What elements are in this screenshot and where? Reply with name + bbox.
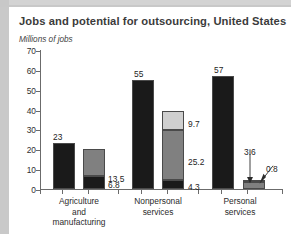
y-axis-label: 50	[6, 86, 36, 96]
category-label-line: Nonpersonal	[134, 196, 182, 207]
x-axis-category-label: Agricultureandmanufacturing	[52, 196, 105, 228]
chart-title: Jobs and potential for outsourcing, Unit…	[19, 15, 286, 27]
arrow-head-0-8	[260, 174, 267, 184]
y-axis-label: 30	[6, 125, 36, 135]
y-axis-label: 60	[6, 66, 36, 76]
plot-area: 010203040506070 2313.56.8559.725.24.3573…	[40, 50, 283, 190]
y-axis-label: 70	[6, 46, 36, 56]
chart-figure: Jobs and potential for outsourcing, Unit…	[0, 0, 291, 234]
annotation-arrows	[40, 50, 283, 191]
x-axis-category-label: Personalservices	[223, 196, 256, 217]
page-edge-left	[0, 0, 9, 234]
x-axis-category-label: Nonpersonalservices	[134, 196, 182, 217]
y-axis-label: 0	[6, 185, 36, 195]
y-axis-label: 40	[6, 106, 36, 116]
y-axis-label: 20	[6, 145, 36, 155]
category-label-line: services	[134, 207, 182, 218]
arrow-head-3-6	[247, 177, 253, 183]
category-label-line: Agriculture	[52, 196, 105, 207]
page-edge-top-inner	[9, 0, 291, 5]
category-label-line: Personal	[223, 196, 256, 207]
category-label-line: services	[223, 207, 256, 218]
category-label-line: manufacturing	[52, 217, 105, 228]
category-label-line: and	[52, 207, 105, 218]
chart-subtitle: Millions of jobs	[19, 35, 73, 44]
y-axis-label: 10	[6, 165, 36, 175]
